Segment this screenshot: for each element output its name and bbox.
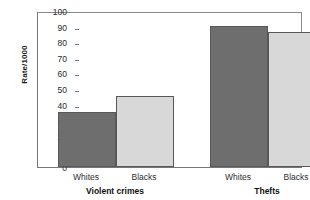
bar <box>268 32 310 167</box>
y-tick-mark <box>75 44 79 45</box>
y-tick-mark <box>75 91 79 92</box>
y-tick-mark <box>75 60 79 61</box>
plot-area: 0102030405060708090100 <box>37 12 302 168</box>
y-axis-title: Rate/1000 <box>20 25 29 105</box>
y-tick-mark <box>75 75 79 76</box>
bar <box>116 96 174 167</box>
x-tick-label: Whites <box>57 172 115 182</box>
y-tick-label: 90 <box>58 23 67 33</box>
y-tick-mark <box>75 107 79 108</box>
group-label: Violent crimes <box>57 186 173 196</box>
bar <box>58 112 116 167</box>
x-tick-label: Whites <box>209 172 267 182</box>
y-tick-label: 50 <box>58 85 67 95</box>
y-tick-label: 70 <box>58 54 67 64</box>
x-tick-label: Blacks <box>267 172 310 182</box>
y-tick-label: 40 <box>58 101 67 111</box>
group-label: Thefts <box>209 186 310 196</box>
y-tick-label: 100 <box>53 7 67 17</box>
y-tick-label: 80 <box>58 38 67 48</box>
bar <box>210 26 268 167</box>
bar-chart: Rate/1000 0102030405060708090100 WhitesB… <box>0 0 310 200</box>
y-tick-mark <box>75 29 79 30</box>
y-tick-label: 60 <box>58 69 67 79</box>
x-tick-label: Blacks <box>115 172 173 182</box>
